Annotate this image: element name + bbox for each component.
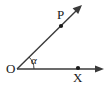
angle-diagram-svg — [0, 0, 107, 94]
label-point-x: X — [73, 71, 82, 84]
point-p-dot — [59, 24, 63, 28]
ray-ox — [17, 66, 104, 73]
ray-op — [17, 5, 82, 69]
label-angle-alpha: α — [31, 55, 37, 66]
label-origin-o: O — [6, 62, 15, 75]
ray-op-line — [17, 11, 76, 69]
ray-ox-arrowhead — [95, 66, 104, 73]
label-point-p: P — [57, 8, 64, 21]
geometry-figure: O P X α — [0, 0, 107, 94]
